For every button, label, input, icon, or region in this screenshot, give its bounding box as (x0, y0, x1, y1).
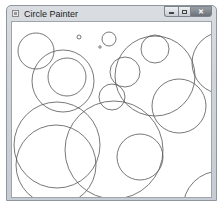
painted-circle (16, 125, 96, 198)
painted-circle (99, 46, 101, 48)
painted-circle (65, 101, 163, 198)
painted-circle (14, 102, 100, 188)
minimize-icon (169, 12, 174, 14)
painted-circle (117, 134, 163, 180)
title-bar[interactable]: Circle Painter ✕ (7, 6, 216, 22)
painted-circle (110, 57, 140, 87)
painted-circle (102, 32, 116, 46)
app-menu-icon[interactable] (12, 10, 19, 17)
window-title: Circle Painter (24, 8, 78, 20)
painted-circle (152, 79, 206, 133)
maximize-icon (182, 10, 187, 14)
minimize-button[interactable] (164, 6, 178, 17)
painted-circle (48, 58, 86, 96)
circles-layer (12, 22, 212, 198)
painted-circle (18, 33, 54, 69)
maximize-button[interactable] (178, 6, 190, 17)
painted-circle (77, 35, 81, 39)
drawing-canvas[interactable] (11, 21, 212, 198)
app-window: Circle Painter ✕ (6, 5, 217, 201)
painted-circle (183, 171, 212, 198)
window-controls: ✕ (164, 6, 212, 17)
painted-circle (115, 36, 195, 116)
close-button[interactable]: ✕ (190, 6, 212, 17)
painted-circle (141, 35, 169, 63)
close-icon: ✕ (198, 8, 204, 15)
